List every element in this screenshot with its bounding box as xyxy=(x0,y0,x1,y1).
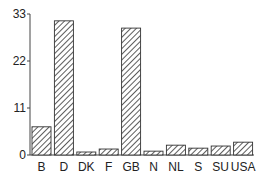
bar-dk xyxy=(77,152,96,155)
x-tick-label: SU xyxy=(212,160,229,174)
y-tick-label: 22 xyxy=(13,54,27,68)
x-tick-label: DK xyxy=(78,160,95,174)
x-tick-label: B xyxy=(37,160,45,174)
bar-n xyxy=(144,151,163,155)
x-tick-label: N xyxy=(149,160,158,174)
bar-chart: 0112233 BDDKFGBNNLSSUUSA xyxy=(0,0,270,181)
y-tick-label: 0 xyxy=(19,148,26,162)
bar-b xyxy=(32,127,51,155)
x-tick-label: F xyxy=(105,160,112,174)
y-tick-label: 11 xyxy=(14,101,27,115)
bar-su xyxy=(211,146,230,155)
bar-nl xyxy=(166,145,185,155)
x-tick-label: GB xyxy=(122,160,139,174)
bars xyxy=(32,21,253,155)
bar-gb xyxy=(122,28,141,155)
category-labels: BDDKFGBNNLSSUUSA xyxy=(37,160,255,174)
bar-d xyxy=(54,21,73,155)
x-tick-label: S xyxy=(194,160,202,174)
bar-usa xyxy=(234,142,253,155)
bar-f xyxy=(99,149,118,155)
x-tick-label: USA xyxy=(231,160,256,174)
y-tick-label: 33 xyxy=(13,7,27,21)
bar-s xyxy=(189,148,208,155)
x-tick-label: D xyxy=(60,160,69,174)
x-tick-label: NL xyxy=(168,160,184,174)
y-axis: 0112233 xyxy=(13,7,30,162)
